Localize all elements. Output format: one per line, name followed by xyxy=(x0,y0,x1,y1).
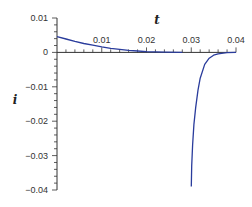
y-tick-label: 0.01 xyxy=(30,13,48,23)
tick-labels: 0.010−0.01−0.02−0.03−0.040.010.020.030.0… xyxy=(25,13,245,195)
x-tick-label: 0.01 xyxy=(93,35,111,45)
y-tick-label: −0.01 xyxy=(25,82,48,92)
data-curves xyxy=(57,37,236,187)
data-line xyxy=(191,52,236,186)
x-tick-label: 0.03 xyxy=(182,35,200,45)
x-tick-label: 0.04 xyxy=(227,35,245,45)
y-tick-label: −0.03 xyxy=(25,151,48,161)
y-tick-label: −0.02 xyxy=(25,116,48,126)
y-axis-label: i xyxy=(13,93,18,107)
y-tick-label: −0.04 xyxy=(25,185,48,195)
x-tick-label: 0.02 xyxy=(138,35,156,45)
y-tick-label: 0 xyxy=(43,47,48,57)
line-chart: 0.010−0.01−0.02−0.03−0.040.010.020.030.0… xyxy=(0,0,252,207)
x-axis-label: t xyxy=(154,13,160,27)
